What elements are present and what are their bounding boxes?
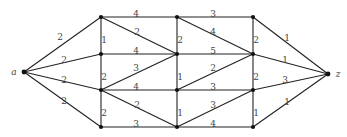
- node-n41: [99, 125, 103, 129]
- edge-weight-label: 3: [210, 9, 216, 19]
- node-n31: [99, 88, 103, 92]
- node-n12: [175, 15, 179, 19]
- edge-weight-label: 3: [133, 63, 139, 73]
- edge-weight-label: 1: [101, 35, 107, 45]
- edge-weight-label: 3: [282, 75, 288, 85]
- edge-weight-label: 5: [210, 46, 216, 56]
- edge-weight-label: 4: [133, 46, 139, 56]
- node-n43: [251, 125, 255, 129]
- edge-weight-label: 4: [133, 82, 139, 92]
- edge-weight-label: 2: [253, 35, 259, 45]
- edge-weight-label: 2: [61, 75, 67, 85]
- edge-weight-label: 2: [101, 108, 107, 118]
- edge-n13-z: [253, 17, 328, 74]
- edge-weight-label: 1: [284, 97, 290, 107]
- edge-weight-label: 1: [284, 33, 290, 43]
- edges-layer: [24, 17, 328, 127]
- edge-weight-label: 2: [134, 27, 140, 37]
- edge-weight-label: 2: [57, 32, 63, 42]
- node-z: [326, 72, 331, 77]
- edge-weight-label: 2: [101, 72, 107, 82]
- edge-weight-label: 2: [253, 72, 259, 82]
- node-n13: [251, 15, 255, 19]
- edge-weight-label: 2: [177, 35, 183, 45]
- edge-weight-label: 3: [133, 119, 139, 129]
- graph-canvas: 2222122444323221135344232211131 az: [0, 0, 347, 137]
- edge-n31-n22: [101, 54, 177, 90]
- edge-weight-label: 3: [210, 100, 216, 110]
- edge-weight-label: 1: [177, 108, 183, 118]
- edge-weight-label: 1: [282, 55, 288, 65]
- node-n32: [175, 88, 179, 92]
- edge-weight-label: 2: [134, 100, 140, 110]
- weighted-graph-diagram: 2222122444323221135344232211131 az: [0, 0, 347, 137]
- edge-weight-label: 4: [210, 119, 216, 129]
- edge-weight-label: 1: [177, 72, 183, 82]
- node-n33: [251, 88, 255, 92]
- node-n22: [175, 52, 179, 56]
- node-n42: [175, 125, 179, 129]
- edge-weight-label: 4: [133, 9, 139, 19]
- node-n11: [99, 15, 103, 19]
- edge-weight-label: 1: [253, 108, 259, 118]
- edge-weight-label: 2: [61, 96, 67, 106]
- node-n21: [99, 52, 103, 56]
- edge-weight-label: 4: [210, 27, 216, 37]
- node-label-a: a: [11, 67, 16, 77]
- node-n23: [251, 52, 255, 56]
- edge-n23-z: [253, 54, 328, 74]
- edge-weight-label: 2: [61, 55, 67, 65]
- node-a: [22, 70, 27, 75]
- edge-weights-layer: 2222122444323221135344232211131: [57, 9, 290, 129]
- edge-weight-label: 3: [210, 82, 216, 92]
- node-label-z: z: [335, 69, 341, 79]
- edge-weight-label: 2: [210, 63, 216, 73]
